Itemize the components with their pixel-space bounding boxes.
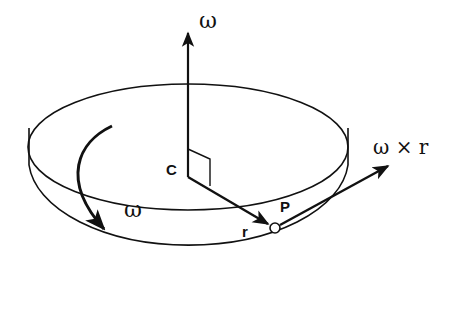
center-label: C <box>166 162 177 177</box>
radius-vector <box>188 177 268 224</box>
velocity-label: ω × r <box>373 137 428 157</box>
radius-label: r <box>242 224 248 239</box>
velocity-vector <box>280 166 388 225</box>
rotation-arrow <box>78 126 112 229</box>
rotating-disc-diagram <box>0 0 456 326</box>
omega-rotation-label: ω <box>124 199 142 221</box>
point-label: P <box>280 199 290 214</box>
omega-axis-label: ω <box>199 10 217 32</box>
point-p <box>270 223 280 233</box>
right-angle-marker <box>188 149 210 186</box>
